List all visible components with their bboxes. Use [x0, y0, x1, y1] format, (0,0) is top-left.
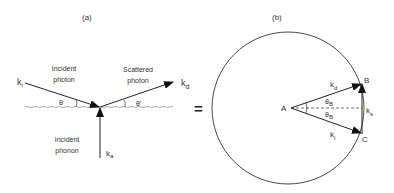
scattered-photon-label-1: Scattered: [123, 66, 153, 73]
panel-b: (b) A B C kd ki ks θB θB: [212, 13, 373, 184]
incident-phonon-label-2: phonon: [55, 147, 78, 155]
panel-a: (a) ki kd ka Incident photon Scattered p…: [17, 13, 190, 159]
k-i-label: ki: [330, 130, 335, 141]
panel-b-label: (b): [272, 13, 282, 22]
angle-out-label: θ′: [136, 100, 142, 107]
angle-in-label: θ: [59, 99, 63, 106]
scattered-photon-label-2: photon: [127, 77, 149, 85]
k-incident-label: ki: [17, 77, 23, 88]
angle-arc-out: [124, 100, 125, 107]
equals-sign: =: [194, 100, 203, 117]
incident-photon-label-1: Incident: [52, 65, 77, 72]
point-b-label: B: [364, 76, 369, 85]
theta-lower-label: θB: [325, 111, 333, 120]
angle-arc-in: [76, 100, 77, 107]
theta-upper-label: θB: [325, 98, 333, 107]
k-s-label: ks: [366, 106, 373, 117]
k-d-label: kd: [330, 80, 337, 91]
k-scattered-label: kd: [181, 78, 190, 90]
incident-photon-label-2: photon: [53, 76, 75, 84]
panel-a-label: (a): [82, 13, 92, 22]
k-phonon-label: ka: [106, 149, 114, 159]
diagram-canvas: (a) ki kd ka Incident photon Scattered p…: [0, 0, 394, 193]
incident-phonon-label-1: Incident: [55, 136, 80, 143]
point-a-label: A: [281, 104, 287, 113]
point-c-label: C: [362, 135, 368, 144]
